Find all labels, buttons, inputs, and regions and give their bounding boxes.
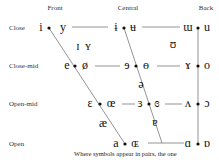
vowel-barred-i: ɨ [114, 21, 117, 33]
vowel-y: y [60, 21, 66, 33]
vowel-a: a [113, 137, 118, 149]
vowel-upsilon: ʊ [170, 38, 177, 50]
vowel-turned-v: ʌ [185, 97, 191, 109]
row-close-mid: Close-mid [9, 62, 38, 70]
vowel-turned-m: ɯ [183, 21, 192, 33]
vowel-ash: æ [99, 117, 107, 129]
vowel-o-slash: ø [82, 59, 88, 71]
row-open: Open [9, 140, 24, 148]
vowel-o: o [204, 59, 210, 71]
column-front: Front [47, 4, 62, 12]
vowel-small-cap-oe: ɶ [131, 137, 139, 149]
vowel-oe-ligature: œ [107, 97, 116, 109]
footnote: Where symbols appear in pairs, the one [74, 150, 177, 157]
vowel-i: i [39, 21, 42, 33]
column-central: Central [118, 4, 139, 12]
vowel-schwa: ə [138, 78, 143, 90]
vowel-rams-horn: ɤ [185, 59, 190, 71]
vowel-reversed-e: ɘ [124, 59, 129, 71]
vowel-barred-o: ɵ [143, 59, 149, 71]
vowel-small-cap-i: ɪ [76, 40, 79, 52]
vowel-closed-reversed-epsilon: ɞ [154, 97, 159, 109]
vowel-barred-u: ʉ [130, 21, 136, 33]
row-close: Close [9, 24, 25, 32]
vowel-turned-a: ɐ [152, 116, 157, 128]
vowel-turned-alpha: ɒ [204, 137, 210, 149]
vowel-epsilon: ɛ [87, 97, 92, 109]
vowel-small-cap-y: ʏ [85, 40, 91, 52]
vowel-open-o: ɔ [204, 97, 209, 109]
column-back: Back [199, 4, 213, 12]
vowel-reversed-epsilon: ɜ [137, 97, 142, 109]
vowel-alpha: ɑ [185, 137, 191, 149]
row-open-mid: Open-mid [9, 100, 37, 108]
vowel-e: e [64, 59, 69, 71]
vowel-u: u [204, 21, 210, 33]
